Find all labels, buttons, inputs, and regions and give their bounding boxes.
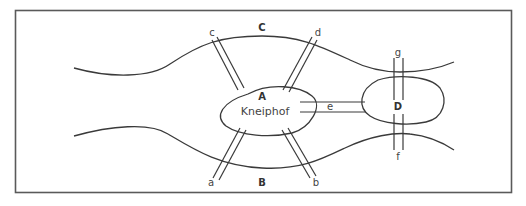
label-landmass-c: C bbox=[258, 22, 265, 33]
bridge-a bbox=[213, 128, 246, 180]
label-landmass-d: D bbox=[394, 101, 402, 112]
label-bridge-e: e bbox=[327, 101, 333, 112]
bridge-c bbox=[212, 37, 244, 90]
label-bridge-a: a bbox=[208, 177, 214, 188]
label-kneiphof: Kneiphof bbox=[241, 105, 291, 118]
label-bridge-g: g bbox=[395, 47, 401, 58]
label-bridge-d: d bbox=[315, 27, 321, 38]
label-landmass-a: A bbox=[258, 91, 266, 102]
label-bridge-f: f bbox=[396, 151, 400, 162]
konigsberg-bridges-diagram: C B A Kneiphof D c d a b e f g bbox=[0, 0, 526, 206]
label-bridge-c: c bbox=[209, 27, 215, 38]
label-bridge-b: b bbox=[313, 177, 319, 188]
bridge-d bbox=[283, 37, 317, 92]
bridge-b bbox=[282, 128, 316, 178]
label-landmass-b: B bbox=[258, 177, 266, 188]
diagram-canvas: C B A Kneiphof D c d a b e f g bbox=[0, 0, 526, 206]
